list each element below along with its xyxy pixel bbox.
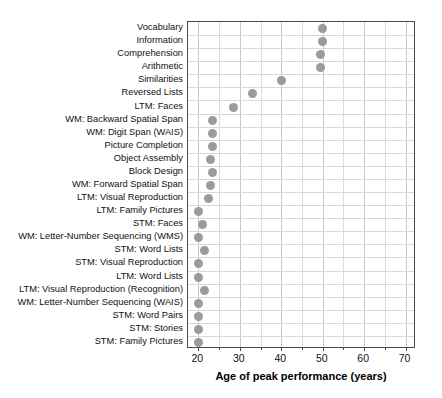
data-point xyxy=(194,312,203,321)
data-point xyxy=(198,220,207,229)
y-axis-label: WM: Letter-Number Sequencing (WAIS) xyxy=(0,297,183,307)
y-axis-label: Reversed Lists xyxy=(0,87,183,97)
gridline-horizontal xyxy=(188,114,414,115)
data-point xyxy=(277,76,286,85)
gridline-vertical xyxy=(281,22,282,347)
y-axis-label: Object Assembly xyxy=(0,153,183,163)
gridline-horizontal xyxy=(188,218,414,219)
x-tick-mark xyxy=(343,347,344,350)
data-point xyxy=(208,168,217,177)
y-axis-label: Similarities xyxy=(0,74,183,84)
x-tick-mark xyxy=(406,347,407,351)
x-tick-mark xyxy=(323,347,324,351)
gridline-horizontal xyxy=(188,257,414,258)
gridline-horizontal xyxy=(188,166,414,167)
gridline-horizontal xyxy=(188,310,414,311)
y-axis-label: Picture Completion xyxy=(0,140,183,150)
gridline-horizontal xyxy=(188,35,414,36)
y-axis-label: Vocabulary xyxy=(0,22,183,32)
data-point xyxy=(200,286,209,295)
data-point xyxy=(318,24,327,33)
data-point xyxy=(194,273,203,282)
data-point xyxy=(248,89,257,98)
gridline-horizontal xyxy=(188,231,414,232)
gridline-horizontal xyxy=(188,205,414,206)
gridline-horizontal xyxy=(188,48,414,49)
x-tick-mark xyxy=(261,347,262,350)
gridline-horizontal xyxy=(188,140,414,141)
data-point xyxy=(206,181,215,190)
gridline-horizontal xyxy=(188,192,414,193)
x-tick-label: 60 xyxy=(343,352,383,364)
y-axis-label: WM: Forward Spatial Span xyxy=(0,179,183,189)
data-point xyxy=(208,129,217,138)
data-point xyxy=(316,63,325,72)
gridline-vertical xyxy=(261,22,262,347)
x-tick-label: 40 xyxy=(260,352,300,364)
gridline-vertical xyxy=(240,22,241,347)
x-tick-label: 50 xyxy=(302,352,342,364)
x-axis-title: Age of peak performance (years) xyxy=(187,370,415,382)
y-axis-label: Information xyxy=(0,35,183,45)
x-tick-mark xyxy=(219,347,220,350)
y-axis-label: STM: Visual Reproduction xyxy=(0,257,183,267)
gridline-horizontal xyxy=(188,179,414,180)
gridline-horizontal xyxy=(188,100,414,101)
x-tick-mark xyxy=(385,347,386,350)
y-axis-label: STM: Word Lists xyxy=(0,244,183,254)
x-tick-mark xyxy=(240,347,241,351)
gridline-vertical xyxy=(343,22,344,347)
x-tick-mark xyxy=(302,347,303,350)
data-point xyxy=(194,207,203,216)
y-axis-label: STM: Word Pairs xyxy=(0,310,183,320)
gridline-horizontal xyxy=(188,87,414,88)
gridline-horizontal xyxy=(188,127,414,128)
data-point xyxy=(200,246,209,255)
gridline-horizontal xyxy=(188,284,414,285)
data-point xyxy=(208,142,217,151)
data-point xyxy=(194,299,203,308)
y-axis-label: WM: Backward Spatial Span xyxy=(0,114,183,124)
gridline-horizontal xyxy=(188,336,414,337)
y-axis-label: WM: Digit Span (WAIS) xyxy=(0,127,183,137)
data-point xyxy=(194,338,203,347)
data-point xyxy=(204,194,213,203)
data-point xyxy=(194,259,203,268)
data-point xyxy=(206,155,215,164)
x-tick-mark xyxy=(281,347,282,351)
gridline-horizontal xyxy=(188,61,414,62)
y-axis-label: LTM: Visual Reproduction (Recognition) xyxy=(0,284,183,294)
gridline-horizontal xyxy=(188,297,414,298)
y-axis-label: WM: Letter-Number Sequencing (WMS) xyxy=(0,231,183,241)
y-axis-label: Arithmetic xyxy=(0,61,183,71)
y-axis-label: STM: Stories xyxy=(0,323,183,333)
gridline-horizontal xyxy=(188,153,414,154)
y-axis-label: LTM: Family Pictures xyxy=(0,205,183,215)
data-point xyxy=(194,325,203,334)
y-axis-label: STM: Family Pictures xyxy=(0,336,183,346)
y-axis-label: LTM: Faces xyxy=(0,101,183,111)
y-axis-label: STM: Faces xyxy=(0,218,183,228)
data-point xyxy=(318,37,327,46)
y-axis-label: LTM: Word Lists xyxy=(0,271,183,281)
scatter-chart: VocabularyInformationComprehensionArithm… xyxy=(0,0,442,398)
data-point xyxy=(194,233,203,242)
gridline-horizontal xyxy=(188,323,414,324)
x-tick-mark xyxy=(198,347,199,351)
gridline-vertical xyxy=(219,22,220,347)
x-tick-label: 30 xyxy=(219,352,259,364)
gridline-vertical xyxy=(385,22,386,347)
y-axis-label: Comprehension xyxy=(0,48,183,58)
x-tick-label: 70 xyxy=(385,352,425,364)
gridline-vertical xyxy=(364,22,365,347)
y-axis-label: LTM: Visual Reproduction xyxy=(0,192,183,202)
gridline-horizontal xyxy=(188,74,414,75)
data-point xyxy=(316,50,325,59)
data-point xyxy=(208,116,217,125)
plot-area xyxy=(187,21,415,348)
x-tick-mark xyxy=(364,347,365,351)
gridline-vertical xyxy=(406,22,407,347)
data-point xyxy=(229,103,238,112)
gridline-horizontal xyxy=(188,271,414,272)
y-axis-label: Block Design xyxy=(0,166,183,176)
